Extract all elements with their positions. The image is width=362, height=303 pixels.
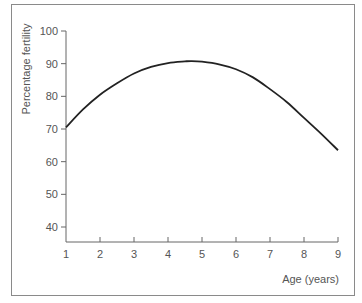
x-tick-label: 5: [199, 248, 205, 260]
x-axis-label: Age (years): [282, 273, 339, 285]
y-tick-label: 40: [46, 221, 58, 233]
x-tick-label: 3: [131, 248, 137, 260]
x-tick-label: 8: [301, 248, 307, 260]
x-tick-label: 7: [267, 248, 273, 260]
y-tick-label: 90: [46, 58, 58, 70]
y-tick-label: 60: [46, 156, 58, 168]
x-tick-label: 9: [335, 248, 341, 260]
x-tick-label: 2: [97, 248, 103, 260]
x-tick-label: 6: [233, 248, 239, 260]
axes: [66, 31, 338, 242]
y-tick-label: 100: [40, 25, 58, 37]
y-tick-label: 80: [46, 90, 58, 102]
x-tick-label: 1: [63, 248, 69, 260]
y-axis-label: Percentage fertility: [20, 23, 32, 115]
data-lines: [66, 61, 338, 150]
y-tick-label: 70: [46, 123, 58, 135]
x-tick-label: 4: [165, 248, 171, 260]
line-chart: 405060708090100123456789 Age (years) Per…: [0, 0, 362, 303]
y-tick-label: 50: [46, 188, 58, 200]
fertility-curve: [66, 61, 338, 150]
